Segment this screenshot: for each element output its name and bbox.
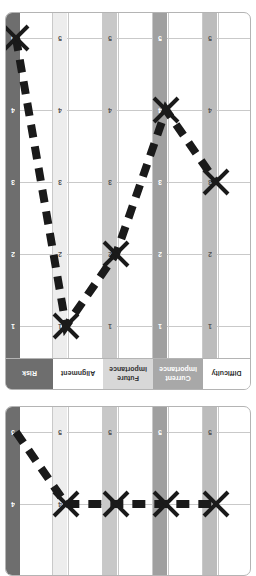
tick-bottom-alignment-4: 4: [53, 497, 67, 511]
category-label-risk[interactable]: Risk: [6, 359, 53, 389]
tick-bottom-alignment-5: 5: [53, 425, 67, 439]
axis-band-bottom-future-importance[interactable]: 5: [103, 407, 117, 575]
tick-risk-3: 3: [6, 175, 20, 189]
tick-bottom-current-5: 5: [153, 425, 167, 439]
tick-alignment-5: 5: [53, 31, 67, 45]
category-label-strip: Risk Alignment Future importance Current…: [6, 358, 250, 389]
category-label-difficulty[interactable]: Difficulty: [203, 359, 250, 389]
tick-bottom-risk-5: 5: [6, 425, 20, 439]
column-separator-bottom-2: [68, 407, 69, 575]
tick-future-2: 2: [103, 247, 117, 261]
tick-difficulty-5: 5: [203, 31, 217, 45]
column-separator-6: [168, 13, 169, 389]
tick-current-4: 4: [153, 103, 167, 117]
column-separator-8: [218, 13, 219, 389]
tick-risk-5: 5: [6, 31, 20, 45]
tick-risk-2: 2: [6, 247, 20, 261]
column-separator-bottom-6: [168, 407, 169, 575]
tick-difficulty-2: 2: [203, 247, 217, 261]
tick-risk-1: 1: [6, 319, 20, 333]
axis-band-future-importance[interactable]: 5 4 3 2 1: [103, 13, 117, 389]
tick-current-3: 3: [153, 175, 167, 189]
tick-future-3: 3: [103, 175, 117, 189]
tick-future-1: 1: [103, 319, 117, 333]
tick-difficulty-1: 1: [203, 319, 217, 333]
column-separator-2: [68, 13, 69, 389]
category-label-future-importance[interactable]: Future importance: [103, 359, 153, 389]
tick-alignment-1: 1: [53, 319, 67, 333]
tick-future-5: 5: [103, 31, 117, 45]
axis-band-difficulty[interactable]: 5 4 3 2 1: [203, 13, 217, 389]
column-separator-bottom-8: [218, 407, 219, 575]
rating-chart-panel-bottom[interactable]: 5 4 5 4 5 5 5: [5, 406, 251, 576]
tick-bottom-risk-4: 4: [6, 497, 20, 511]
column-separator-4: [118, 13, 119, 389]
tick-difficulty-3: 3: [203, 175, 217, 189]
axis-band-bottom-alignment[interactable]: 5 4: [53, 407, 67, 575]
axis-band-current-importance[interactable]: 5 4 3 2 1: [153, 13, 167, 389]
tick-bottom-difficulty-5: 5: [203, 425, 217, 439]
tick-alignment-3: 3: [53, 175, 67, 189]
tick-current-2: 2: [153, 247, 167, 261]
category-label-current-importance[interactable]: Current importance: [153, 359, 203, 389]
category-label-alignment[interactable]: Alignment: [53, 359, 103, 389]
axis-band-risk[interactable]: 5 4 3 2 1: [6, 13, 20, 389]
tick-difficulty-4: 4: [203, 103, 217, 117]
tick-current-5: 5: [153, 31, 167, 45]
tick-bottom-future-5: 5: [103, 425, 117, 439]
axis-band-bottom-difficulty[interactable]: 5: [203, 407, 217, 575]
tick-current-1: 1: [153, 319, 167, 333]
axis-band-alignment[interactable]: 5 4 3 2 1: [53, 13, 67, 389]
tick-risk-4: 4: [6, 103, 20, 117]
tick-future-4: 4: [103, 103, 117, 117]
tick-alignment-2: 2: [53, 247, 67, 261]
axis-band-bottom-current-importance[interactable]: 5: [153, 407, 167, 575]
tick-alignment-4: 4: [53, 103, 67, 117]
axis-band-bottom-risk[interactable]: 5 4: [6, 407, 20, 575]
column-separator-bottom-4: [118, 407, 119, 575]
plot-area-top: 5 4 3 2 1 5 4 3 2 1 5 4 3 2 1: [6, 13, 250, 389]
rating-chart-panel-top[interactable]: 5 4 3 2 1 5 4 3 2 1 5 4 3 2 1: [5, 12, 251, 390]
plot-area-bottom: 5 4 5 4 5 5 5: [6, 407, 250, 575]
